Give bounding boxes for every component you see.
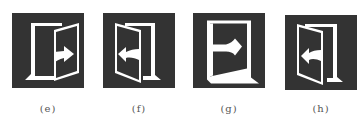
exit-door-right-arrow-icon [12, 13, 84, 88]
caption-g: (g) [193, 103, 265, 114]
caption-e: (e) [12, 103, 84, 114]
enter-door-left-arrow-icon [103, 13, 175, 88]
panel-g [193, 13, 265, 88]
panel-f [103, 13, 175, 88]
enter-door-left-arrow-icon [285, 15, 357, 90]
caption-h: (h) [285, 103, 357, 114]
panel-h [285, 15, 357, 90]
panel-e [12, 13, 84, 88]
caption-f: (f) [103, 103, 175, 114]
exit-door-right-arrow-icon [193, 13, 265, 88]
